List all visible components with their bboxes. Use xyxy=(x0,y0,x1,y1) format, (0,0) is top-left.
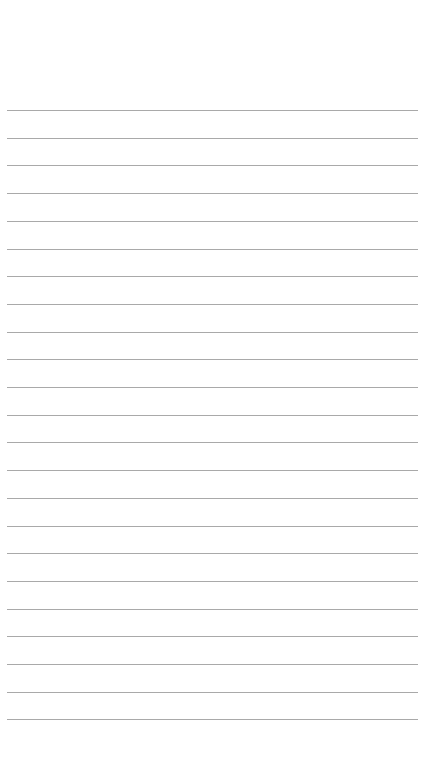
ruled-line xyxy=(7,415,418,416)
lined-paper-page xyxy=(0,0,431,771)
ruled-line xyxy=(7,609,418,610)
ruled-line xyxy=(7,470,418,471)
ruled-line xyxy=(7,636,418,637)
ruled-line xyxy=(7,110,418,111)
ruled-line xyxy=(7,304,418,305)
ruled-line xyxy=(7,442,418,443)
ruled-line xyxy=(7,249,418,250)
ruled-line xyxy=(7,193,418,194)
ruled-line xyxy=(7,664,418,665)
ruled-line xyxy=(7,221,418,222)
ruled-line xyxy=(7,138,418,139)
ruled-line xyxy=(7,719,418,720)
ruled-line xyxy=(7,165,418,166)
ruled-line xyxy=(7,498,418,499)
ruled-line xyxy=(7,387,418,388)
ruled-line xyxy=(7,276,418,277)
ruled-line xyxy=(7,581,418,582)
ruled-line xyxy=(7,332,418,333)
ruled-line xyxy=(7,359,418,360)
ruled-line xyxy=(7,692,418,693)
ruled-line xyxy=(7,526,418,527)
ruled-line xyxy=(7,553,418,554)
